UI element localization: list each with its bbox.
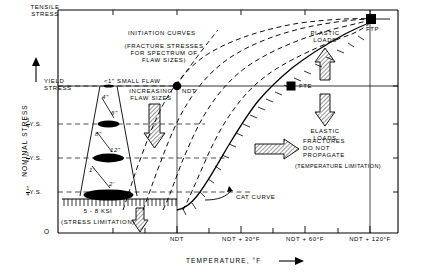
elastic-loads-arrow	[315, 94, 335, 126]
flaw-label-4in: 4"	[102, 94, 109, 101]
stress-limitation-note: (STRESS LIMITATION)	[48, 219, 148, 226]
fractures-arrow	[255, 139, 299, 159]
small-flaw-label: <1" SMALL FLAW	[104, 78, 161, 85]
flaw-label-8in: 8"	[95, 131, 102, 138]
flaw-label-2ft: 2'	[109, 181, 115, 188]
increasing-flaw-sizes-label: INCREASING FLAW SIZES	[116, 88, 186, 102]
tensile-stress-label: TENSILE STRESS	[22, 4, 68, 18]
x-axis-arrow	[279, 257, 304, 265]
fracture-stresses-note: (FRACTURE STRESSES FOR SPECTRUM OF FLAW …	[104, 43, 224, 64]
ytick-quarter-ys: 14Y.S.	[26, 187, 43, 197]
flaw-label-12in: 12"	[110, 147, 121, 154]
origin-label: O	[44, 228, 50, 235]
x-axis-title: TEMPERATURE, °F	[186, 257, 261, 264]
fracture-analysis-diagram: TENSILE STRESS YIELD STRESS 34Y.S. 12Y.S…	[0, 0, 427, 274]
yield-stress-label: YIELD STRESS	[44, 78, 72, 92]
xtick-ndt-60: NDT + 60°F	[275, 236, 335, 243]
fractures-do-not-propagate-label: FRACTURES DO NOT PROPAGATE	[303, 138, 345, 159]
initiation-curves-title: INITIATION CURVES	[128, 30, 196, 37]
temperature-limitation-note: (TEMPERATURE LIMITATION)	[295, 163, 381, 170]
flaw-size-cone	[80, 86, 137, 196]
flaw-label-6in: 6"	[111, 110, 118, 117]
y-axis-arrow	[32, 57, 40, 82]
y-axis-title: NOMINAL STRESS	[21, 88, 28, 193]
cat-curve-leader	[205, 186, 233, 200]
plastic-loads-arrow	[315, 48, 335, 80]
ftp-marker-label: FTP	[366, 26, 379, 33]
stress-limitation-value: 5 - 8 KSI	[58, 208, 138, 215]
stress-limitation-band	[62, 199, 177, 206]
ndt-marker-label: NDT	[182, 88, 196, 95]
xtick-ndt-120: NDT + 120°F	[340, 236, 400, 243]
xtick-ndt: NDT	[147, 236, 207, 243]
flaw-label-1ft: 1'	[89, 167, 95, 174]
plastic-loads-label: PLASTIC LOADS	[295, 30, 355, 44]
ytick-half-ys: 12Y.S.	[26, 153, 43, 163]
cat-curve-label: CAT CURVE	[236, 194, 275, 201]
ytick-three-quarter-ys: 34Y.S.	[26, 119, 43, 129]
marker-fte-point	[287, 82, 296, 91]
marker-ftp-point	[366, 14, 390, 24]
fte-marker-label: FTE	[299, 83, 312, 90]
diagram-canvas	[0, 0, 427, 274]
xtick-ndt-30: NDT + 30°F	[211, 236, 271, 243]
